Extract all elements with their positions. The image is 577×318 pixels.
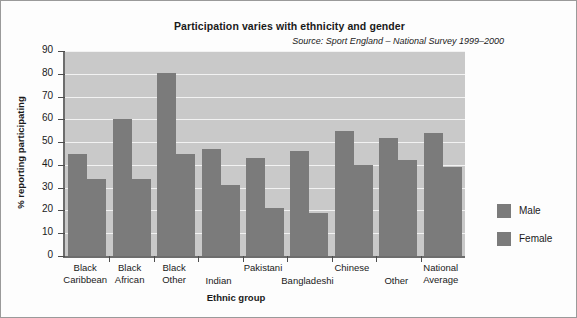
bar-male [68,154,87,257]
bar-male [202,149,221,256]
y-axis-tick [58,97,65,98]
y-axis-tick-label: 20 [42,203,53,214]
legend-swatch [497,204,511,218]
bar-group [379,51,417,256]
y-axis-tick [58,74,65,75]
bar-group [290,51,328,256]
y-axis-tick [58,51,65,52]
y-axis-tick-label: 10 [42,226,53,237]
chart-figure: Participation varies with ethnicity and … [0,0,577,318]
y-axis-tick [58,119,65,120]
bar-group [246,51,284,256]
chart-title: Participation varies with ethnicity and … [1,20,577,32]
y-axis-tick [58,188,65,189]
y-axis-tick [58,142,65,143]
y-axis-tick-label: 80 [42,67,53,78]
y-axis-tick-label: 70 [42,90,53,101]
bar-female [221,185,240,256]
bar-group [424,51,462,256]
x-axis-title: Ethnic group [1,292,471,303]
y-axis-tick-label: 90 [42,44,53,55]
bar-group [113,51,151,256]
bar-group [68,51,106,256]
bar-male [290,151,309,256]
bar-female [87,179,106,256]
x-axis-category-label: Bangladeshi [271,275,343,287]
legend-swatch [497,232,511,246]
y-axis-tick-label: 30 [42,181,53,192]
bar-group [335,51,373,256]
bar-male [246,158,265,256]
y-axis-tick [58,256,65,257]
y-axis-tick-label: 50 [42,135,53,146]
y-axis-tick [58,210,65,211]
bar-female [443,167,462,256]
bar-group [157,51,195,256]
bar-female [398,160,417,256]
y-axis-tick-label: 60 [42,112,53,123]
bar-male [424,133,443,256]
bar-female [309,213,328,256]
bar-female [176,154,195,257]
bar-male [335,131,354,256]
chart-source-note: Source: Sport England – National Survey … [1,36,504,46]
bar-group [202,51,240,256]
y-axis-tick-label: 0 [47,249,53,260]
bar-male [379,138,398,256]
x-axis-category-label: Chinese [316,262,388,274]
plot-area: 0102030405060708090 [63,51,465,258]
y-axis-tick-label: 40 [42,158,53,169]
bar-female [132,179,151,256]
bar-female [354,165,373,256]
legend-label: Female [519,233,552,244]
legend-label: Male [519,205,541,216]
bar-male [157,73,176,256]
y-axis-tick [58,233,65,234]
x-axis-category-label: Indian [183,275,255,287]
y-axis-tick [58,165,65,166]
x-axis-category-label: Pakistani [227,262,299,274]
bar-male [113,119,132,256]
bar-female [265,208,284,256]
y-axis-title: % reporting participating [15,68,26,238]
x-axis-category-label: National Average [405,262,477,285]
